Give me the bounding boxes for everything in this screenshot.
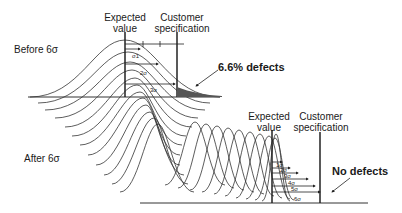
svg-text:5σ: 5σ [291, 186, 298, 192]
defects-annotation: 6.6% defects [218, 62, 285, 73]
label-line: Expected [245, 111, 293, 122]
defects-tail [177, 87, 222, 97]
top-customer-spec-label: Customer specification [150, 12, 214, 34]
label-line: Customer [290, 111, 352, 122]
top-expected-value-label: Expected value [103, 12, 147, 34]
svg-text:3σ: 3σ [284, 173, 291, 179]
svg-text:σ1: σ1 [132, 53, 140, 59]
label-line: value [103, 23, 147, 34]
no-defects-annotation: No defects [332, 166, 388, 177]
label-line: specification [150, 23, 214, 34]
svg-text:3σ: 3σ [150, 87, 157, 93]
label-line: Customer [150, 12, 214, 23]
label-line: specification [290, 122, 352, 133]
label-line: value [245, 122, 293, 133]
bottom-expected-value-label: Expected value [245, 111, 293, 133]
before-label: Before 6σ [14, 44, 58, 55]
after-label: After 6σ [24, 153, 60, 164]
after-curves [165, 122, 294, 201]
svg-text:2σ: 2σ [140, 70, 147, 76]
label-line: Expected [103, 12, 147, 23]
svg-text:6σ: 6σ [294, 196, 301, 202]
bottom-customer-spec-label: Customer specification [290, 111, 352, 133]
